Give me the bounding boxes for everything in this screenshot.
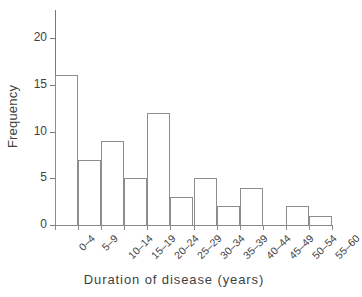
x-tick-mark (309, 225, 310, 230)
x-tick-mark (170, 225, 171, 230)
x-tick-label: 5–9 (99, 232, 120, 253)
y-tick-label: 20 (21, 30, 47, 44)
histogram-bar (124, 178, 147, 225)
x-axis-label: Duration of disease (years) (0, 272, 348, 287)
x-tick-mark (147, 225, 148, 230)
x-tick-mark (194, 225, 195, 230)
histogram-bar (309, 216, 332, 225)
histogram-bar (78, 160, 101, 225)
x-tick-label: 50–54 (310, 232, 339, 261)
histogram-bar (217, 206, 240, 225)
histogram-bar (170, 197, 193, 225)
x-tick-label: 15–19 (148, 232, 177, 261)
y-tick-label: 0 (21, 217, 47, 231)
x-tick-label: 30–34 (218, 232, 247, 261)
x-tick-label: 45–49 (287, 232, 316, 261)
x-tick-mark (101, 225, 102, 230)
x-tick-mark (55, 225, 56, 230)
x-tick-label: 0–4 (76, 232, 97, 253)
y-tick-mark (50, 38, 55, 39)
y-tick-label: 5 (21, 170, 47, 184)
histogram-bar (55, 75, 78, 225)
x-tick-mark (240, 225, 241, 230)
histogram-bar (101, 141, 124, 225)
x-tick-label: 40–44 (264, 232, 293, 261)
x-tick-mark (286, 225, 287, 230)
x-tick-label: 10–14 (125, 232, 154, 261)
x-tick-mark (78, 225, 79, 230)
y-axis-label: Frequency (6, 84, 21, 147)
x-tick-label: 20–24 (171, 232, 200, 261)
y-tick-label: 10 (21, 124, 47, 138)
x-tick-mark (332, 225, 333, 230)
x-tick-mark (217, 225, 218, 230)
histogram-bar (194, 178, 217, 225)
x-tick-mark (263, 225, 264, 230)
x-tick-label: 55–60 (333, 232, 362, 261)
x-tick-label: 25–29 (195, 232, 224, 261)
y-tick-label: 15 (21, 77, 47, 91)
histogram-bar (240, 188, 263, 225)
histogram-bar (286, 206, 309, 225)
x-tick-mark (124, 225, 125, 230)
histogram-bar (147, 113, 170, 225)
x-tick-label: 35–39 (241, 232, 270, 261)
